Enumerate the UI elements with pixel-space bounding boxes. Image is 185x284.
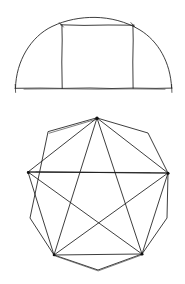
figure-sheet: Geometric Construction Figures xyxy=(0,0,185,284)
vertex-right-dot xyxy=(167,172,170,175)
nonagon-outline-retrace-top-left xyxy=(49,119,96,133)
nonagon-outline-retrace-bottom xyxy=(55,255,142,271)
vertex-bottom-right-dot xyxy=(141,253,144,256)
vertex-left-dot xyxy=(27,171,30,174)
chord-left-to-bottom-left xyxy=(28,172,54,255)
semicircle-arc xyxy=(16,17,172,88)
vertex-bottom-left-dot xyxy=(53,254,56,257)
diameter-baseline xyxy=(15,88,172,89)
chord-top-to-right xyxy=(97,118,168,173)
chord-top-to-left xyxy=(28,118,97,172)
geometry-drawing-canvas xyxy=(0,0,185,284)
rectangle-top-side xyxy=(61,25,135,26)
chord-right-to-bottom-right xyxy=(142,173,168,254)
star-edge-top-to-bottom-right xyxy=(97,118,142,254)
figure-semicircle-with-inscribed-rectangle xyxy=(15,17,172,92)
star-edge-right-to-bottom-left xyxy=(54,118,97,255)
figure-nonagon-with-inscribed-pentagram xyxy=(27,117,170,271)
vertex-top-dot xyxy=(95,117,98,120)
nonagon-outline xyxy=(30,118,168,270)
star-edge-bottom-left-to-top xyxy=(28,172,168,173)
star-edge-bottom-right-to-left xyxy=(54,173,168,255)
chord-bottom-left-to-bottom-right xyxy=(54,254,142,255)
